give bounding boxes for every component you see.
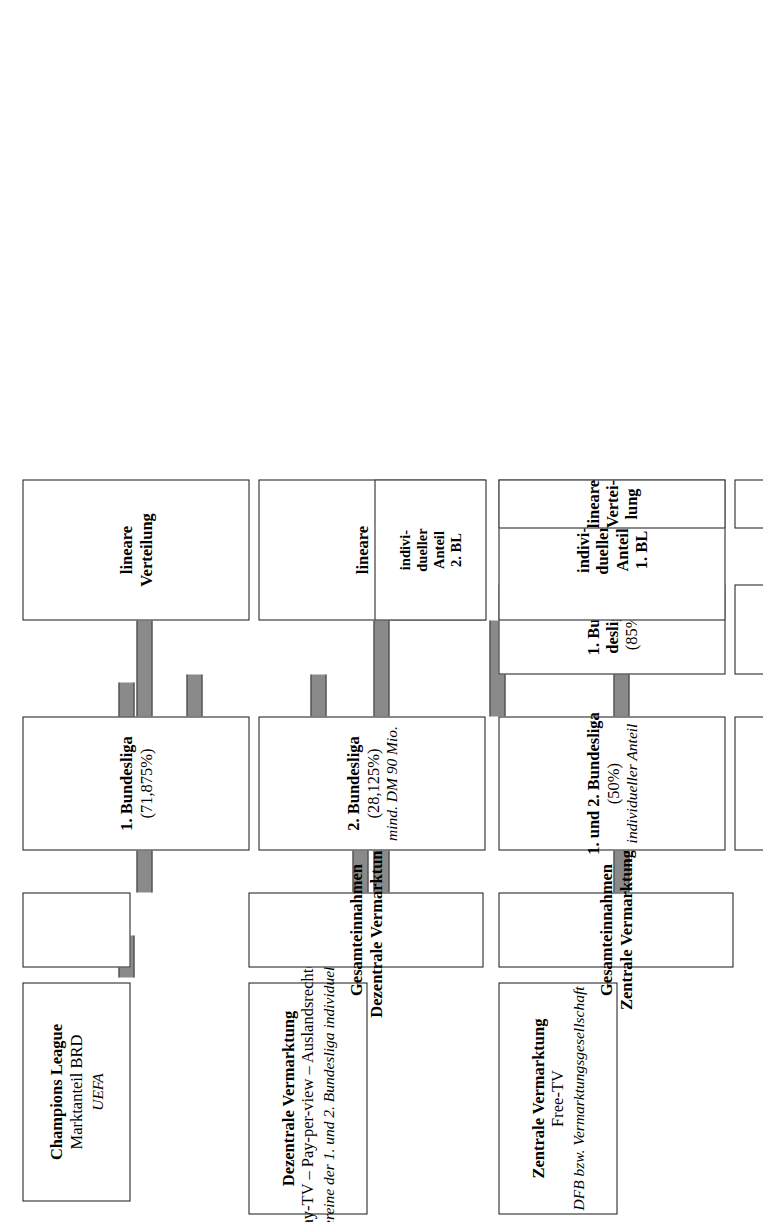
flow-diagram-canvas: Zentrale Vermarktung Free-TV DFB bzw. Ve…	[0, 0, 763, 1222]
node-title: 2. Bundesliga	[343, 736, 362, 830]
node-dezentrale-vermarktung[interactable]: Dezentrale Vermarktung Pay-TV – Pay-per-…	[248, 982, 367, 1214]
node-title: Gesamteinnahmen	[346, 864, 365, 996]
node-note: DFB bzw. Vermarktungsgesellschaft	[569, 986, 587, 1210]
node-solidaritaetspool[interactable]: Solidaritätspool Abgabe von 50% der Vere…	[734, 716, 763, 850]
connector-bl2-to-linear	[373, 620, 389, 716]
node-title-1: lineare	[116, 525, 135, 573]
connector-gesamtzentral-to-bl1	[136, 850, 152, 892]
node-bundesliga-1-und-2-dezentral[interactable]: 1. und 2. Bundesliga (50%) individueller…	[498, 716, 725, 850]
connector-bl1-to-linear	[136, 620, 152, 716]
node-subtitle: Dezentrale Vermarktung	[366, 842, 385, 1018]
connector-pool-to-bl2	[186, 674, 202, 716]
node-line-2: dueller	[592, 525, 611, 575]
node-value: (28,125%)	[363, 748, 382, 818]
node-value: (71,875%)	[136, 748, 155, 818]
node-gesamteinnahmen-zentral[interactable]: Gesamteinnahmen Zentrale Vermarktung	[498, 892, 733, 967]
node-line-3: Anteil	[430, 531, 447, 569]
node-line-4: 1. BL	[631, 530, 650, 569]
node-title: Champions League	[46, 1023, 65, 1159]
node-line-3: lung	[621, 488, 640, 519]
node-note: Vereine der 1. und 2. Bundesliga individ…	[319, 962, 337, 1222]
node-subtitle: Zentrale Vermarktung	[616, 850, 635, 1010]
node-line-1: indivi-	[573, 527, 592, 573]
node-title: 1. Bundesliga	[116, 736, 135, 830]
node-title: Dezentrale Vermarktung	[278, 1010, 297, 1186]
node-individueller-anteil-bl2[interactable]: indivi- dueller Anteil 2. BL	[374, 479, 486, 620]
node-note: mind. DM 90 Mio.	[382, 726, 400, 841]
node-subtitle: Marktanteil BRD	[66, 1034, 85, 1149]
node-value: (50%)	[603, 762, 622, 803]
node-gesamteinnahmen-dezentral[interactable]: Gesamteinnahmen Dezentrale Vermarktung	[248, 892, 483, 967]
node-subtitle: Pay-TV – Pay-per-view – Auslandsrechte	[297, 961, 316, 1222]
node-note: individueller Anteil	[622, 723, 640, 843]
node-title-1: lineare	[352, 525, 371, 573]
node-champions-league[interactable]: Champions League Marktanteil BRD UEFA	[22, 982, 130, 1201]
node-bundesliga1-zentral[interactable]: 1. Bundesliga (71,875%)	[22, 716, 249, 850]
node-line-1: indivi-	[396, 529, 413, 569]
node-line-1: lineare	[583, 479, 602, 527]
node-note: UEFA	[88, 1073, 106, 1111]
node-lineare-verteilung-pool-bl1[interactable]: lineare Vertei- lung	[498, 479, 725, 528]
node-subtitle: Free-TV	[547, 1070, 566, 1127]
node-line-4: 2. BL	[447, 533, 464, 567]
node-title: Gesamteinnahmen	[596, 864, 615, 996]
node-line-2: Vertei-	[602, 480, 621, 528]
node-title-2: Verteilung	[136, 513, 155, 587]
node-zentrale-vermarktung[interactable]: Zentrale Vermarktung Free-TV DFB bzw. Ve…	[498, 982, 617, 1214]
node-pool-bundesliga2[interactable]: 2. Bun- desliga (15%)	[734, 584, 763, 674]
node-champions-league-spacer	[22, 892, 130, 967]
node-line-2: dueller	[413, 528, 430, 572]
node-title: 1. und 2. Bundesliga	[583, 712, 602, 855]
node-title: Zentrale Vermarktung	[528, 1018, 547, 1178]
node-lineare-verteilung-bl1-zentral[interactable]: lineare Verteilung	[22, 479, 249, 620]
node-lineare-verteilung-pool-bl2[interactable]: lineare Vertei- lung	[734, 479, 763, 528]
node-bundesliga2-zentral[interactable]: 2. Bundesliga (28,125%) mind. DM 90 Mio.	[258, 716, 485, 850]
node-line-3: Anteil	[612, 528, 631, 571]
connector-pool-to-bl1	[310, 674, 326, 716]
